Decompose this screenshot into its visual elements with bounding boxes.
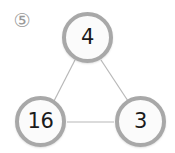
graph-figure: ⑤ 4 16 3 <box>0 0 175 153</box>
graph-node-top: 4 <box>62 12 113 63</box>
graph-node-left: 16 <box>15 96 66 147</box>
edge-top-right <box>101 60 128 101</box>
graph-node-left-label: 16 <box>27 111 53 132</box>
graph-node-top-label: 4 <box>81 27 94 48</box>
graph-node-right: 3 <box>115 96 166 147</box>
edge-top-left <box>54 60 75 101</box>
graph-node-right-label: 3 <box>134 111 147 132</box>
